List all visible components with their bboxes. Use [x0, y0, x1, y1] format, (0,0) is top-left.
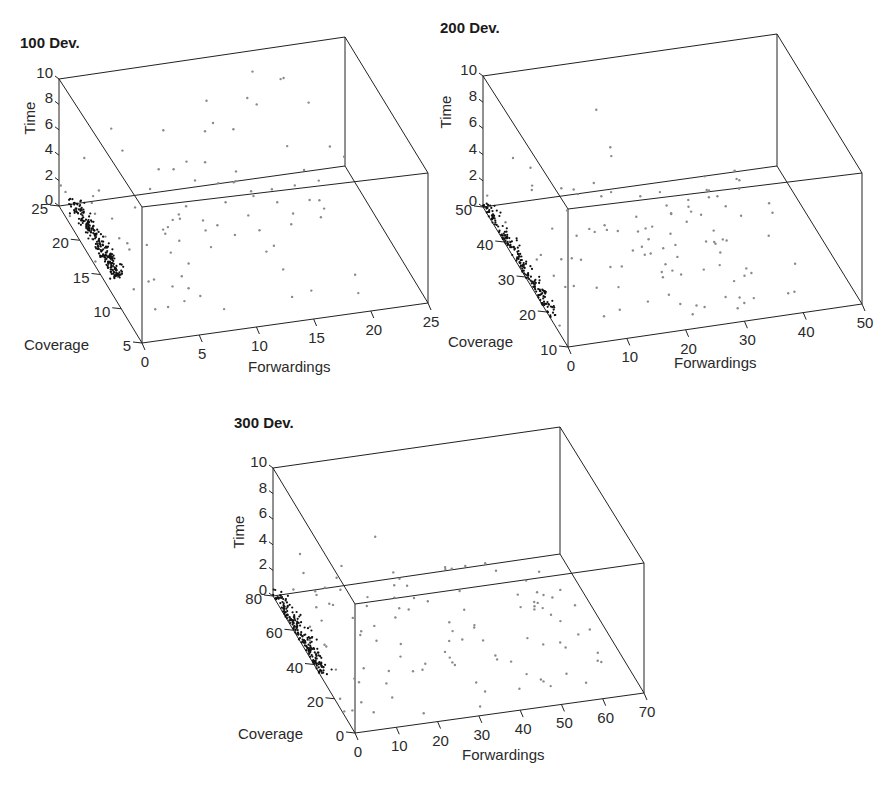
box-edge	[568, 173, 862, 209]
data-point	[644, 254, 646, 256]
data-point	[252, 195, 254, 197]
data-point	[251, 70, 253, 72]
data-point	[108, 242, 110, 244]
data-point	[210, 246, 212, 248]
data-point	[483, 206, 485, 208]
data-point	[70, 206, 72, 208]
data-point	[357, 292, 359, 294]
data-point	[343, 156, 345, 158]
data-point	[320, 619, 322, 621]
data-point	[146, 244, 148, 246]
data-point	[687, 199, 689, 201]
data-point	[550, 685, 552, 687]
y-tick-label: 10	[94, 303, 111, 320]
data-point	[111, 268, 113, 270]
data-point	[120, 274, 122, 276]
data-point	[178, 213, 180, 215]
data-point	[504, 234, 506, 236]
data-point	[547, 303, 549, 305]
data-point	[560, 187, 562, 189]
data-point	[516, 237, 518, 239]
data-point	[281, 607, 283, 609]
data-point	[703, 306, 705, 308]
data-point	[299, 625, 301, 627]
data-point	[77, 212, 79, 214]
data-point	[95, 247, 97, 249]
data-point	[513, 246, 515, 248]
data-point	[285, 598, 287, 600]
data-point	[486, 194, 488, 196]
data-point	[509, 246, 511, 248]
data-point	[320, 216, 322, 218]
x-tick	[199, 335, 202, 342]
data-point	[473, 626, 475, 628]
data-point	[502, 237, 504, 239]
data-point	[484, 690, 486, 692]
data-point	[635, 216, 637, 218]
data-point	[517, 257, 519, 259]
y-tick	[517, 276, 526, 277]
data-point	[531, 184, 533, 186]
z-tick-label: 6	[45, 115, 53, 132]
data-point	[559, 589, 561, 591]
data-point	[309, 656, 311, 658]
data-point	[489, 204, 491, 206]
data-point	[733, 280, 735, 282]
data-point	[366, 596, 368, 598]
data-point	[88, 223, 90, 225]
y-tick-label: 60	[266, 624, 283, 641]
data-point	[321, 672, 323, 674]
x-tick-label: 50	[857, 314, 874, 331]
data-point	[87, 237, 89, 239]
panel-title: 200 Dev.	[440, 19, 500, 36]
data-point	[96, 241, 98, 243]
box-edge	[777, 166, 862, 304]
data-point	[97, 245, 99, 247]
y-tick-label: 20	[519, 306, 536, 323]
z-tick-label: 4	[469, 140, 477, 157]
data-point	[94, 213, 96, 215]
data-point	[309, 626, 311, 628]
x-tick-label: 70	[639, 703, 656, 720]
x-tick	[644, 693, 647, 700]
data-point	[339, 698, 341, 700]
data-point	[318, 662, 320, 664]
data-point	[153, 278, 155, 280]
data-point	[286, 145, 288, 147]
x-tick-label: 15	[308, 329, 325, 346]
data-point	[313, 647, 315, 649]
data-point	[311, 637, 313, 639]
y-tick-label: 80	[245, 590, 262, 607]
data-point	[98, 252, 100, 254]
z-tick-label: 10	[36, 64, 53, 81]
data-point	[121, 271, 123, 273]
data-point	[743, 275, 745, 277]
data-point	[475, 681, 477, 683]
data-point	[594, 231, 596, 233]
data-point	[670, 213, 672, 215]
data-point	[519, 253, 521, 255]
data-point	[87, 221, 89, 223]
z-tick	[479, 99, 483, 102]
data-point	[307, 101, 309, 103]
data-point	[217, 182, 219, 184]
data-point	[713, 241, 715, 243]
x-tick-label: 10	[621, 348, 638, 365]
data-point	[115, 265, 117, 267]
data-point	[703, 175, 705, 177]
data-point	[315, 655, 317, 657]
data-point	[107, 256, 109, 258]
data-point	[204, 229, 206, 231]
data-point	[172, 168, 174, 170]
data-point	[282, 268, 284, 270]
data-point	[502, 225, 504, 227]
data-point	[289, 622, 291, 624]
data-point	[194, 179, 196, 181]
data-point	[671, 269, 673, 271]
data-point	[530, 276, 532, 278]
data-point	[297, 629, 299, 631]
data-point	[183, 300, 185, 302]
data-point	[491, 218, 493, 220]
data-point	[542, 643, 544, 645]
data-point	[740, 215, 742, 217]
